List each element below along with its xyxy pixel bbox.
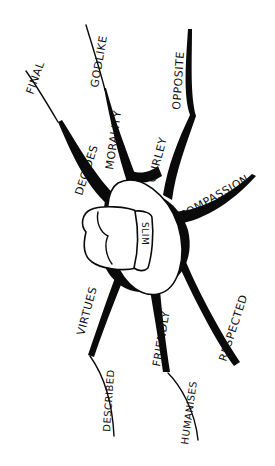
label-humanises: HUMANISES (179, 380, 199, 445)
label-described: DESCRIBED (101, 369, 116, 432)
label-opposite: OPPOSITE (170, 51, 187, 110)
label-virtues: VIRTUES (74, 285, 99, 336)
label-curley: CURLEY (145, 136, 170, 184)
hat-crown (83, 207, 142, 270)
label-compassion: COMPASSION (177, 172, 251, 222)
center-label: SLIM (140, 222, 150, 245)
mind-map-canvas: SLIM FINAL DECIDES GODLIKE MORALITY CURL… (0, 0, 275, 466)
label-friendly: FRIENDLY (150, 310, 173, 368)
label-final: FINAL (24, 59, 48, 96)
cowboy-hat-icon: SLIM (83, 180, 182, 294)
